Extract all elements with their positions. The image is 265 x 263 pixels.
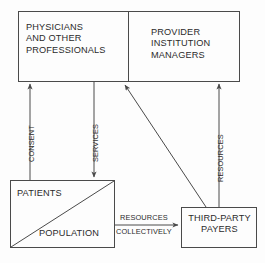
diagram-vector-layer [0,0,265,263]
node-provider-managers-box [129,12,240,82]
diagram-canvas: PHYSICIANS AND OTHER PROFESSIONALS PROVI… [0,0,265,263]
edge-payers-to-physicians-diagonal-arrow [125,85,206,207]
node-physicians-box [19,12,129,82]
node-third-party-payers-box [182,208,257,248]
patients-population-divider-diagonal [11,181,114,247]
